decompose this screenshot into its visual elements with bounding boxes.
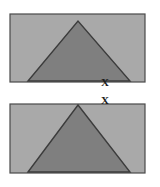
diagram-canvas: X X [0, 0, 160, 187]
top-panel-group [10, 14, 145, 82]
bottom-panel-group [10, 104, 145, 173]
x-mark-lower: X [101, 94, 109, 106]
diagram-root: X X [0, 0, 160, 187]
x-mark-upper: X [101, 76, 109, 88]
